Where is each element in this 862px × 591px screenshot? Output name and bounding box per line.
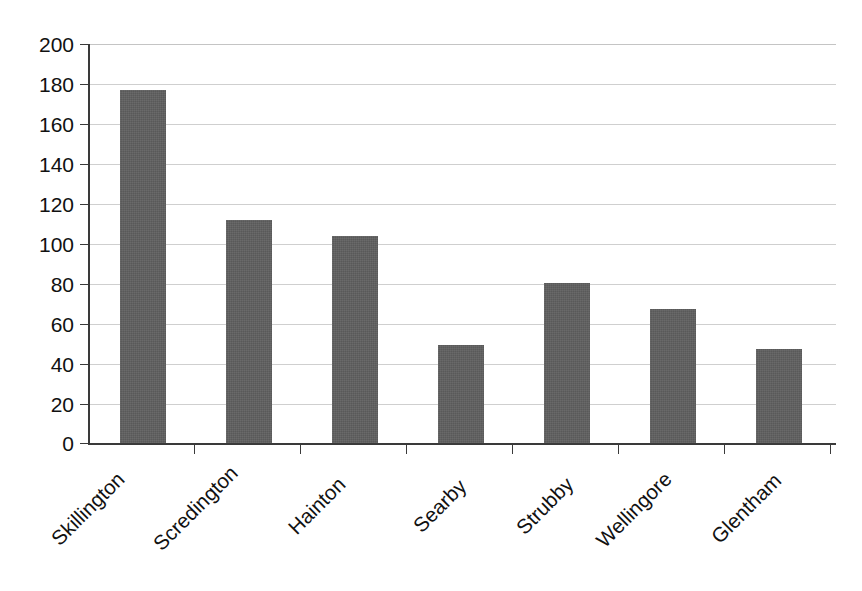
x-tick-label-glentham: Glentham	[707, 469, 785, 547]
x-tick-label-hainton: Hainton	[284, 473, 350, 539]
x-tick-label-searby: Searby	[409, 475, 470, 536]
x-tick-label-wellingore: Wellingore	[592, 468, 676, 552]
x-tick-label-scredington: Scredington	[149, 462, 242, 555]
x-tick-label-strubby: Strubby	[512, 473, 578, 539]
x-axis-labels-group: Skillington Scredington Hainton Searby S…	[0, 0, 862, 591]
x-tick-label-skillington: Skillington	[47, 468, 129, 550]
bar-chart: 200 180 160 140 120 100 80 60 40 20 0	[0, 0, 862, 591]
